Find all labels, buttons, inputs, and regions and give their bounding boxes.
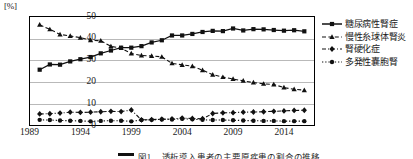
circle-marker [330,60,334,64]
diamond-marker [251,109,256,115]
circle-marker [37,118,41,122]
caption-rule [118,153,134,156]
circle-marker [139,118,143,122]
legend-label: 腎硬化症 [343,44,380,54]
circle-marker [109,119,113,123]
square-marker [109,48,113,52]
legend-sample [321,31,343,43]
circle-marker [58,118,62,122]
caption-text: 図1 透析導入患者の主要原疾患の割合の推移 [138,150,320,159]
square-marker [241,28,245,32]
square-marker [150,40,154,44]
legend-item-3[interactable]: 腎硬化症 [321,43,413,56]
square-marker [139,44,143,48]
legend-item-4[interactable]: 多発性嚢胞腎 [321,56,413,69]
circle-marker [200,118,204,122]
triangle-marker [98,38,103,43]
square-marker [292,28,296,32]
legend-item-1[interactable]: 糖尿病性腎症 [321,18,413,31]
square-marker [200,30,204,34]
diamond-marker [47,111,52,117]
circle-marker [302,119,306,123]
circle-marker [190,117,194,121]
circle-marker [149,118,153,122]
diamond-marker [220,110,225,116]
square-marker [330,22,334,26]
triangle-marker [129,51,134,56]
circle-marker [68,119,72,123]
legend-item-2[interactable]: 慢性糸球体腎炎 [321,31,413,44]
triangle-marker [190,64,195,69]
circle-marker [78,119,82,123]
square-marker [231,26,235,30]
square-marker [190,32,194,36]
square-marker [48,62,52,66]
triangle-marker [302,87,307,92]
triangle-marker [169,61,174,66]
circle-marker [119,119,123,123]
square-marker [221,29,225,33]
square-marker [180,33,184,37]
legend-label: 多発性嚢胞腎 [343,57,397,67]
diamond-marker [261,109,266,115]
circle-marker [241,118,245,122]
diamond-marker [78,110,83,116]
square-marker [68,59,72,63]
circle-marker [261,119,265,123]
circle-marker [282,119,286,123]
triangle-marker [37,22,42,27]
square-marker [251,27,255,31]
diamond-marker [241,109,246,115]
diamond-marker [302,107,307,113]
diamond-marker [68,109,73,115]
diamond-marker [108,108,113,114]
chart-figure: [%] 50403020100 198919941999200420092014… [0,0,413,159]
square-marker [99,51,103,55]
circle-marker [180,117,184,121]
diamond-marker [230,110,235,116]
diamond-marker [329,46,334,52]
figure-caption: 図1 透析導入患者の主要原疾患の割合の推移 [118,150,413,159]
diamond-marker [129,107,134,113]
circle-marker [292,119,296,123]
legend-label: 慢性糸球体腎炎 [343,32,406,42]
circle-marker [88,119,92,123]
circle-marker [170,117,174,121]
legend-sample [321,18,343,30]
circle-marker [211,118,215,122]
legend-sample [321,56,343,68]
diamond-marker [281,108,286,114]
legend-label: 糖尿病性腎症 [343,19,397,29]
square-marker [160,38,164,42]
square-marker [302,29,306,33]
triangle-marker [220,74,225,79]
square-marker [211,29,215,33]
circle-marker [272,119,276,123]
triangle-marker [68,33,73,38]
legend-sample [321,43,343,55]
diamond-marker [88,109,93,115]
chart-legend: 糖尿病性腎症慢性糸球体腎炎腎硬化症多発性嚢胞腎 [321,18,413,68]
triangle-marker [271,82,276,87]
triangle-marker [251,80,256,85]
diamond-marker [37,111,42,117]
square-marker [129,46,133,50]
diamond-marker [119,109,124,115]
circle-marker [221,118,225,122]
square-marker [170,33,174,37]
square-marker [282,29,286,33]
diamond-marker [271,108,276,114]
diamond-marker [210,111,215,117]
diamond-marker [292,108,297,114]
circle-marker [251,119,255,123]
square-marker [88,55,92,59]
diamond-marker [57,110,62,116]
diamond-marker [98,109,103,115]
series-2 [37,22,307,92]
square-marker [262,27,266,31]
triangle-marker [108,44,113,49]
square-marker [78,57,82,61]
square-marker [38,68,42,72]
triangle-marker [159,54,164,59]
circle-marker [99,119,103,123]
